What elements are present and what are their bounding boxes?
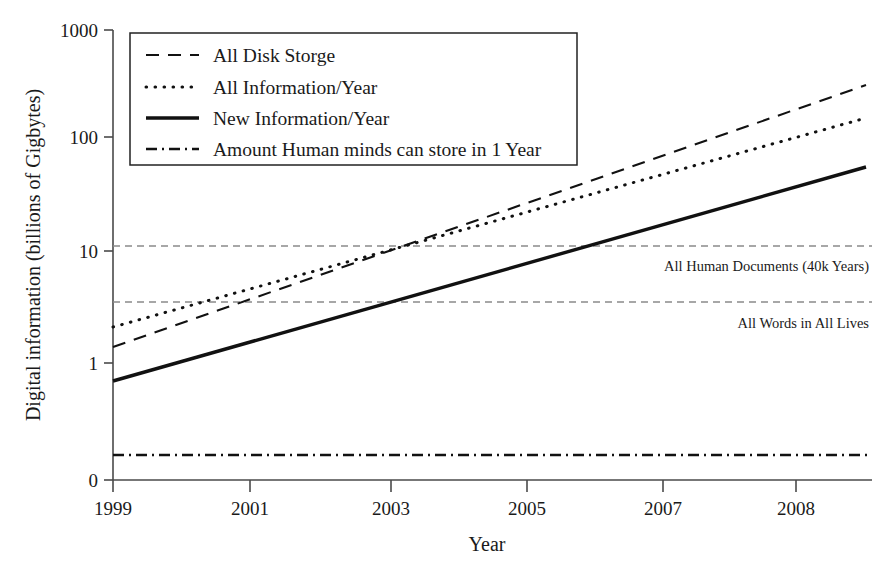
y-axis-title: Digital information (billions of Gigbyte… — [22, 89, 45, 421]
x-axis-tick-labels: 1999 2001 2003 2005 2007 2008 — [94, 498, 815, 519]
x-tick-label-2003: 2003 — [372, 498, 410, 519]
x-tick-label-2007: 2007 — [644, 498, 682, 519]
x-tick-label-2005: 2005 — [508, 498, 546, 519]
legend-label-human-minds-storage: Amount Human minds can store in 1 Year — [213, 139, 542, 160]
x-tick-label-2001: 2001 — [231, 498, 269, 519]
x-axis-ticks — [113, 480, 796, 492]
chart-page: 1000 100 10 1 0 1999 2001 2003 2005 2007… — [0, 0, 888, 573]
y-tick-label-10: 10 — [79, 241, 98, 262]
y-tick-label-1: 1 — [89, 353, 99, 374]
legend-label-all-disk-storge: All Disk Storge — [213, 45, 335, 66]
legend-label-all-information-per-year: All Information/Year — [213, 77, 378, 98]
x-tick-label-1999: 1999 — [94, 498, 132, 519]
y-axis-tick-labels: 1000 100 10 1 0 — [60, 20, 98, 491]
y-axis-ticks — [104, 30, 113, 480]
digital-information-line-chart: 1000 100 10 1 0 1999 2001 2003 2005 2007… — [0, 0, 888, 573]
y-tick-label-1000: 1000 — [60, 20, 98, 41]
series-line-new-information-per-year — [113, 167, 866, 381]
y-tick-label-100: 100 — [70, 127, 99, 148]
legend-label-new-information-per-year: New Information/Year — [213, 108, 390, 129]
x-tick-label-2008: 2008 — [777, 498, 815, 519]
x-axis-title: Year — [469, 533, 506, 555]
annotation-all-words-in-all-lives: All Words in All Lives — [738, 315, 870, 331]
y-tick-label-0: 0 — [89, 470, 99, 491]
annotation-all-human-documents: All Human Documents (40k Years) — [664, 258, 869, 275]
chart-legend: All Disk Storge All Information/Year New… — [130, 33, 577, 165]
